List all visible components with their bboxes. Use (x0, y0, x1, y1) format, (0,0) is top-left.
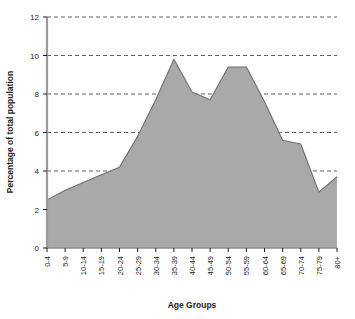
x-axis-title: Age Groups (168, 300, 217, 310)
x-axis-tick-label: 5-9 (61, 256, 70, 267)
y-axis-tick-label: 4 (35, 167, 40, 176)
x-axis-tick-label: 40-44 (188, 256, 197, 275)
y-axis-tick-label: 6 (35, 129, 40, 138)
x-axis-tick-label: 55-59 (242, 256, 251, 275)
y-axis-tick-label: 10 (30, 52, 39, 61)
x-axis-tick-label: 50-54 (224, 256, 233, 275)
y-axis-title: Percentage of total population (5, 71, 15, 193)
y-axis-tick-label: 12 (30, 13, 39, 22)
chart-container: 024681012 0-45-910-1415-1920-2425-2930-3… (0, 0, 355, 319)
y-axis-tick-label: 2 (35, 206, 40, 215)
x-axis-tick-label: 25-29 (134, 256, 143, 275)
x-axis-ticks: 0-45-910-1415-1920-2425-2930-3435-3940-4… (43, 248, 342, 275)
y-axis-ticks: 024681012 (30, 13, 47, 253)
x-axis-tick-label: 20-24 (116, 256, 125, 275)
x-axis-tick-label: 35-39 (170, 256, 179, 275)
x-axis-tick-label: 70-74 (297, 256, 306, 275)
x-axis-tick-label: 15-19 (97, 256, 106, 275)
x-axis-tick-label: 75-79 (315, 256, 324, 275)
x-axis-tick-label: 65-69 (279, 256, 288, 275)
y-axis-tick-label: 0 (35, 244, 40, 253)
x-axis-tick-label: 10-14 (79, 256, 88, 275)
x-axis-tick-label: 60-64 (261, 256, 270, 275)
x-axis-tick-label: 45-49 (206, 256, 215, 275)
population-age-area-chart: 024681012 0-45-910-1415-1920-2425-2930-3… (0, 0, 355, 319)
x-axis-tick-label: 0-4 (43, 256, 52, 267)
x-axis-tick-label: 80+ (333, 255, 342, 268)
x-axis-tick-label: 30-34 (152, 256, 161, 275)
y-axis-tick-label: 8 (35, 90, 40, 99)
